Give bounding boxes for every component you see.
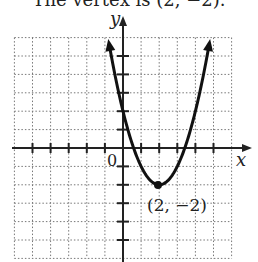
- vertex-label: (2, −2): [147, 195, 207, 215]
- y-axis: [119, 16, 127, 262]
- origin-label: 0: [107, 151, 117, 170]
- y-axis-arrow-icon: [119, 16, 127, 26]
- x-axis-label: x: [236, 149, 246, 170]
- curve-arrow-left-icon: [105, 39, 115, 52]
- curve-arrow-right-icon: [203, 39, 213, 52]
- graph: y x 0 (2, −2): [0, 0, 258, 262]
- y-axis-label: y: [109, 8, 121, 29]
- vertex-point: [154, 181, 162, 189]
